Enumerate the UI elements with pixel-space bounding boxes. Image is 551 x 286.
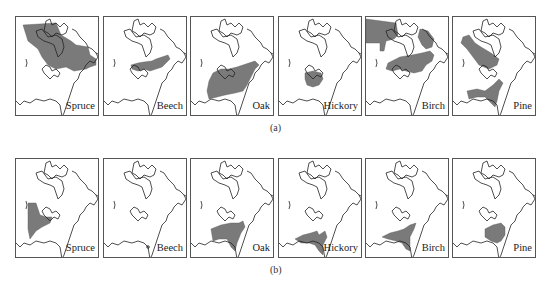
map-panel-hickory-a: Hickory — [278, 16, 362, 116]
coastline-outline — [219, 161, 243, 179]
coastline-outline — [453, 241, 499, 258]
coastline-outline — [191, 99, 237, 116]
species-range-area — [467, 79, 503, 107]
coastline-outline — [299, 29, 327, 57]
species-range-area — [23, 23, 96, 71]
species-range-area — [131, 55, 170, 71]
coastline-outline — [307, 19, 331, 37]
coastline-outline — [376, 201, 377, 209]
coastline-outline — [307, 161, 331, 179]
coastline-outline — [366, 99, 412, 116]
species-label: Spruce — [66, 242, 95, 253]
map-panel-oak-a: Oak — [190, 16, 274, 116]
coastline-outline — [289, 59, 290, 67]
coastline-outline — [26, 201, 27, 209]
map-panel-oak-b: Oak — [190, 158, 274, 258]
coastline-outline — [114, 201, 115, 209]
map-panel-spruce-a: Spruce — [15, 16, 99, 116]
coastline-outline — [299, 171, 327, 199]
species-label: Spruce — [66, 100, 95, 111]
coastline-outline — [211, 29, 239, 57]
coastline-outline — [114, 59, 115, 67]
coastline-outline — [386, 171, 414, 199]
species-range-area — [382, 223, 416, 251]
coastline-outline — [392, 207, 410, 221]
species-range-area — [485, 223, 505, 243]
map-panel-pine-b: Pine — [452, 158, 536, 258]
species-range-area — [386, 51, 434, 73]
coastline-outline — [124, 29, 152, 57]
coastline-outline — [44, 161, 68, 179]
species-range-area — [366, 19, 398, 51]
coastline-outline — [16, 99, 62, 116]
coastline-outline — [479, 207, 497, 221]
coastline-outline — [211, 171, 239, 199]
map-panel-birch-a: Birch — [365, 16, 449, 116]
species-label: Pine — [513, 100, 532, 111]
coastline-outline — [201, 59, 202, 67]
coastline-outline — [463, 201, 464, 209]
coastline-outline — [104, 99, 150, 116]
species-range-area — [207, 61, 259, 99]
species-label: Pine — [513, 242, 532, 253]
row-caption-b: (b) — [270, 264, 282, 275]
map-panel-pine-a: Pine — [452, 16, 536, 116]
species-label: Birch — [422, 242, 445, 253]
coastline-outline — [481, 19, 505, 37]
map-panel-beech-a: Beech — [103, 16, 187, 116]
coastline-outline — [130, 207, 148, 221]
species-label: Oak — [253, 242, 271, 253]
coastline-outline — [481, 161, 505, 179]
species-label: Oak — [253, 100, 271, 111]
species-label: Beech — [157, 100, 183, 111]
coastline-outline — [289, 201, 290, 209]
species-label: Hickory — [324, 242, 358, 253]
coastline-outline — [376, 59, 377, 67]
coastline-outline — [104, 241, 150, 258]
coastline-outline — [124, 171, 152, 199]
coastline-outline — [463, 59, 464, 67]
coastline-outline — [26, 59, 27, 67]
map-panel-hickory-b: Hickory — [278, 158, 362, 258]
row-caption-a: (a) — [270, 122, 281, 133]
coastline-outline — [132, 161, 156, 179]
coastline-outline — [473, 171, 501, 199]
coastline-outline — [36, 171, 64, 199]
map-panel-beech-b: Beech — [103, 158, 187, 258]
coastline-outline — [132, 19, 156, 37]
coastline-outline — [219, 19, 243, 37]
coastline-outline — [394, 161, 418, 179]
species-label: Birch — [422, 100, 445, 111]
species-range-area — [295, 231, 327, 255]
map-panel-spruce-b: Spruce — [15, 158, 99, 258]
coastline-outline — [305, 207, 323, 221]
map-panel-birch-b: Birch — [365, 158, 449, 258]
coastline-outline — [16, 241, 62, 258]
species-label: Beech — [157, 242, 183, 253]
species-range-area — [211, 221, 245, 251]
species-label: Hickory — [324, 100, 358, 111]
coastline-outline — [279, 99, 325, 116]
coastline-outline — [217, 207, 235, 221]
coastline-outline — [201, 201, 202, 209]
